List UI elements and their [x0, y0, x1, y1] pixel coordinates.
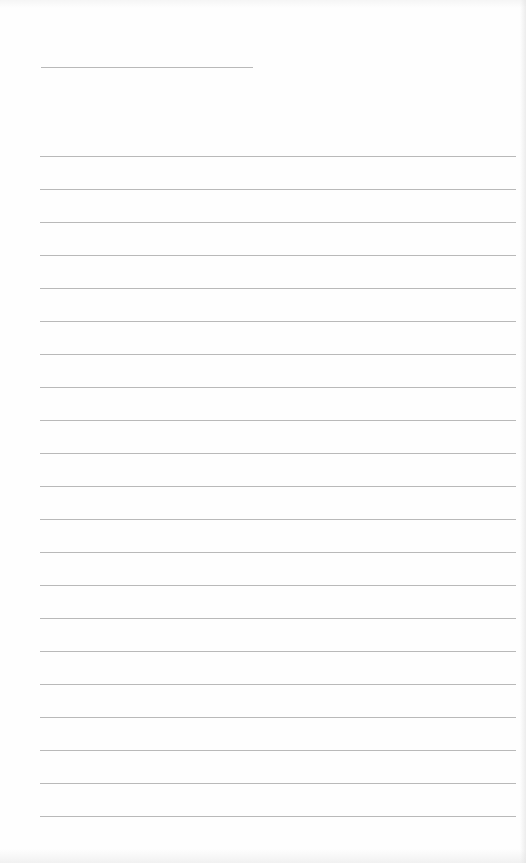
ruled-line — [40, 222, 516, 223]
header-line — [41, 67, 253, 68]
ruled-line — [40, 783, 516, 784]
ruled-line — [40, 816, 516, 817]
ruled-line — [40, 288, 516, 289]
ruled-line — [40, 156, 516, 157]
ruled-line — [40, 354, 516, 355]
ruled-line — [40, 717, 516, 718]
ruled-line — [40, 321, 516, 322]
bottom-edge-bleed — [0, 849, 526, 863]
lined-paper-page — [0, 0, 526, 863]
ruled-line — [40, 585, 516, 586]
ruled-line — [40, 552, 516, 553]
ruled-line — [40, 750, 516, 751]
ruled-line — [40, 387, 516, 388]
ruled-line — [40, 684, 516, 685]
right-edge-shadow — [520, 0, 526, 863]
ruled-line — [40, 255, 516, 256]
ruled-line — [40, 618, 516, 619]
ruled-line — [40, 486, 516, 487]
top-edge-bleed — [0, 0, 526, 8]
ruled-line — [40, 519, 516, 520]
ruled-line — [40, 420, 516, 421]
ruled-line — [40, 189, 516, 190]
ruled-line — [40, 453, 516, 454]
ruled-line — [40, 651, 516, 652]
